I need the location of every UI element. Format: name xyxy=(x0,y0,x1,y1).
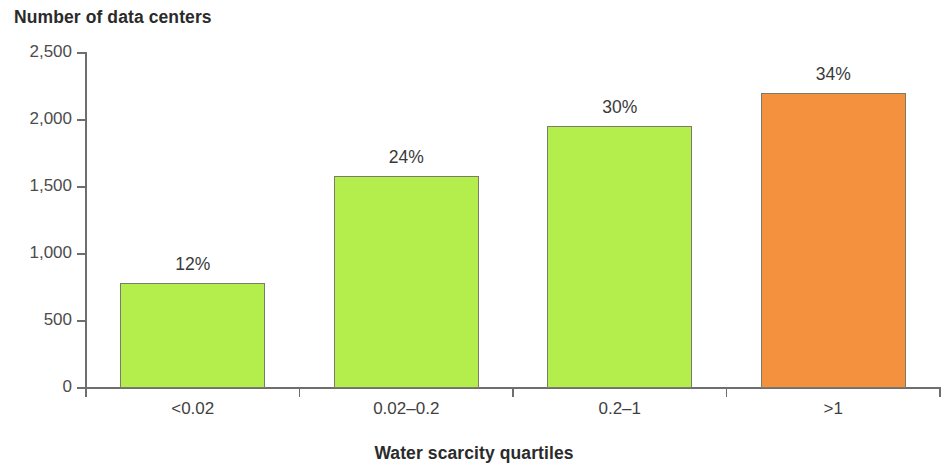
y-axis-title: Number of data centers xyxy=(14,7,212,28)
bar xyxy=(761,93,906,388)
y-axis-tick xyxy=(77,119,86,121)
y-axis-tick-label: 1,000 xyxy=(0,243,72,263)
y-axis-tick-label: 0 xyxy=(0,377,72,397)
x-axis-tick xyxy=(512,388,514,397)
y-axis-tick-label: 2,000 xyxy=(0,109,72,129)
y-axis-tick-label: 2,500 xyxy=(0,42,72,62)
bar xyxy=(547,126,692,388)
bar-value-label: 30% xyxy=(547,97,692,118)
bar-value-label: 24% xyxy=(334,147,479,168)
x-axis-tick-label: 0.2–1 xyxy=(513,399,727,419)
y-axis-tick-label: 500 xyxy=(0,310,72,330)
bar xyxy=(334,176,479,388)
y-axis-tick-label: 1,500 xyxy=(0,176,72,196)
y-axis-tick xyxy=(77,253,86,255)
bar xyxy=(120,283,265,388)
bar-value-label: 34% xyxy=(761,64,906,85)
x-axis-tick-label: <0.02 xyxy=(86,399,300,419)
bar-chart: Number of data centers 2,5002,0001,5001,… xyxy=(0,0,948,465)
x-axis-title: Water scarcity quartiles xyxy=(0,443,948,464)
x-axis-tick-label: 0.02–0.2 xyxy=(300,399,514,419)
x-axis-tick xyxy=(726,388,728,397)
y-axis-tick xyxy=(77,320,86,322)
plot-area: 12%24%30%34% xyxy=(86,53,940,388)
x-axis-tick xyxy=(939,388,941,397)
x-axis-tick xyxy=(85,388,87,397)
y-axis-tick xyxy=(77,186,86,188)
bar-value-label: 12% xyxy=(120,254,265,275)
x-axis-tick-label: >1 xyxy=(727,399,941,419)
x-axis-tick xyxy=(299,388,301,397)
y-axis-tick xyxy=(77,52,86,54)
